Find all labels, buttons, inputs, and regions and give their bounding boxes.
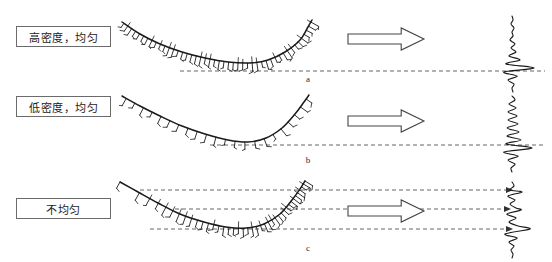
hatch-hook [303,45,307,46]
hatch-tick [128,23,130,26]
hatch-tick [228,62,229,69]
hatch-tick [132,31,135,36]
arrow-row-c [348,200,424,222]
hatch-tick [251,222,252,227]
hatch-hook [240,70,243,71]
hatch-tick [252,63,253,72]
hatch-tick [248,228,249,234]
hatch-hook [308,111,311,113]
hatch-tick [282,203,287,207]
hatch-hook [308,41,311,43]
interface-curve-a [118,20,319,74]
hatch-tick [273,134,276,138]
hatch-tick [275,57,277,62]
hatch-tick [260,225,262,230]
hatch-tick [283,53,287,60]
hatch-tick [177,51,179,56]
hatch-hook [140,115,142,118]
hatch-tick [204,134,206,142]
arrow-row-a [348,28,424,50]
hatch-tick [127,29,131,35]
hatch-hook [223,236,226,238]
hatch-hook [287,135,291,136]
hatch-tick [296,187,300,190]
hatch-tick [167,121,170,128]
hatch-hook [293,125,297,127]
hatch-tick [140,108,144,115]
hatch-tick [256,226,258,235]
hatch-tick [264,139,267,147]
hatch-tick [155,203,158,209]
hatch-hook [234,147,236,148]
hatch-tick [273,215,275,218]
hatch-tick [146,199,150,206]
hatch-tick [199,57,201,66]
hatch-tick [154,42,156,47]
hatch-tick [195,220,197,227]
hatch-tick [158,199,160,203]
hatch-tick [287,51,292,58]
hatch-hook [124,35,127,36]
hatch-tick [275,218,280,225]
hatch-hook [208,67,210,69]
hatch-hook [304,194,305,198]
hatch-hook [158,123,161,126]
hatch-tick [288,44,291,48]
hatch-tick [279,55,281,60]
hatch-tick [288,122,293,127]
hatch-hook [200,142,204,143]
hatch-tick [234,141,235,147]
hatch-tick [233,228,234,235]
hatch-tick [218,61,219,70]
hatch-tick [266,61,268,70]
hatch-tick [257,62,258,70]
hatch-hook [215,232,218,233]
hatch-tick [185,54,187,61]
hatch-tick [303,184,310,188]
hatch-hook [298,48,302,49]
hatch-hook [199,66,202,68]
hatch-tick [204,58,205,64]
hatch-hook [256,148,260,149]
hatch-tick [224,140,225,145]
hatch-hook [221,68,224,69]
interface-curve-b-line [122,95,309,142]
hatch-tick [194,56,196,64]
hatch-tick [195,132,197,139]
hatch-tick [210,54,211,59]
hatch-tick [122,98,126,105]
interface-curve-b [119,95,311,150]
hatch-tick [124,26,128,31]
hatch-tick [309,26,316,30]
hatch-tick [174,45,176,50]
hatch-hook [274,139,276,141]
hatch-tick [293,199,300,204]
hatch-tick [281,213,286,218]
hatch-tick [117,182,120,188]
hatch-tick [190,55,192,62]
wiggle-trace-b [504,96,532,172]
hatch-hook [249,72,253,74]
hatch-hook [206,231,208,233]
hatch-hook [291,209,294,210]
hatch-hook [293,53,295,57]
hatch-tick [137,34,140,39]
hatch-tick [223,227,224,236]
hatch-tick [150,195,152,199]
hatch-hook [312,186,313,190]
hatch-tick [252,227,253,236]
hatch-hook [204,64,207,66]
hatch-hook [190,62,193,64]
hatch-tick [266,217,269,222]
panel-letter-c: c [298,243,318,253]
hatch-hook [289,213,292,215]
hatch-tick [301,187,306,190]
interface-curve-a-line [122,20,312,63]
hatch-tick [223,62,224,68]
hatch-tick [295,196,301,200]
label-text: 低密度，均匀 [29,99,98,115]
hatch-tick [268,215,271,220]
hatch-tick [158,116,161,123]
label-text: 高密度，均匀 [29,29,98,45]
hatch-tick [306,30,312,33]
